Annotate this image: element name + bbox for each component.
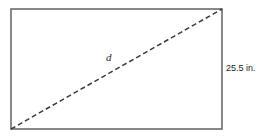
right-side-length-label: 25.5 in. bbox=[226, 63, 256, 74]
diagonal-dashed-line bbox=[11, 9, 222, 129]
geometry-figure: d 25.5 in. bbox=[0, 0, 267, 138]
diagonal-length-label: d bbox=[106, 51, 112, 63]
